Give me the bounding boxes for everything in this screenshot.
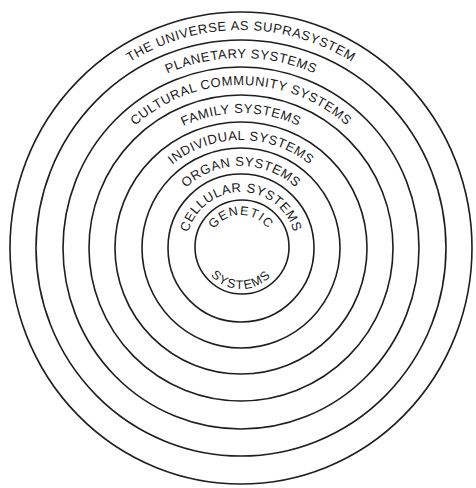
ring-cellular (168, 174, 314, 322)
label-planetary: PLANETARY SYSTEMS (163, 46, 320, 76)
ring-organ (142, 148, 340, 348)
label-family: FAMILY SYSTEMS (178, 101, 303, 129)
label-cultural-community: CULTURAL COMMUNITY SYSTEMS (127, 73, 355, 128)
nested-systems-diagram: THE UNIVERSE AS SUPRASYSTEM PLANETARY SY… (0, 0, 476, 488)
